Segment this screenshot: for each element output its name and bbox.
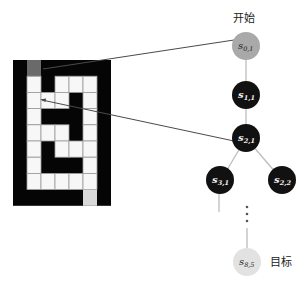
maze-cell-free [41,173,55,189]
tree-node-s85: s8,5 [233,248,261,276]
goal-label: 目标 [270,255,292,269]
maze-cell-free [27,76,41,92]
maze-cell-free [27,109,41,125]
tree-node-s11: s1,1 [232,81,260,109]
maze-cell-free [27,173,41,189]
maze-cell-free [69,173,83,189]
maze-cell-free [83,173,97,189]
maze-cell-free [83,76,97,92]
maze-cell-free [27,157,41,173]
maze-cell-free [83,157,97,173]
tree-edges [219,46,282,262]
maze-cell-free [55,76,69,92]
tree-node-s21: s2,1 [232,124,260,152]
maze-cell-free [41,125,55,141]
tree-node-s01: s0,1 [232,32,260,60]
tree-node-s22: s2,2 [268,166,296,194]
maze-cell-free [55,92,69,108]
link-s01-start-cell [43,40,234,69]
maze-cell-free [27,125,41,141]
maze-cell-free [27,141,41,157]
maze-cell-free [83,125,97,141]
maze-cell-free [69,76,83,92]
ellipsis-icon [246,206,249,223]
maze-cell-free [83,141,97,157]
maze-cell-free [55,141,69,157]
start-label: 开始 [233,11,255,25]
maze-cell-goal [83,190,97,206]
maze-cell-free [83,92,97,108]
maze-cell-free [55,173,69,189]
maze-cell-free [27,92,41,108]
maze-cell-free [69,141,83,157]
maze-cell-free [55,125,69,141]
tree-node-s31: s3,1 [206,166,234,194]
maze-grid [13,60,111,206]
maze-search-tree-diagram: s0,1 s1,1 s2,1 s3,1 s2,2 s8,5 开始 目标 [0,0,308,284]
maze-cell-start [27,60,41,76]
